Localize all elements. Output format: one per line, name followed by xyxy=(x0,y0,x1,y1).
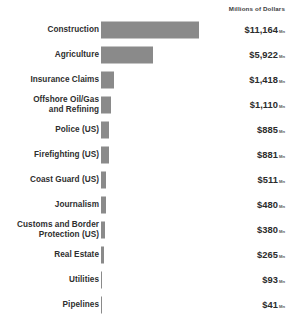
category-label-line: Agriculture xyxy=(4,49,99,60)
chart-row: Customs and BorderProtection (US)$380Mn xyxy=(0,217,289,242)
category-label-line: Customs and Border xyxy=(4,219,99,230)
bar-track xyxy=(101,121,109,138)
value-label: $1,418Mn xyxy=(249,75,285,85)
category-label-line: Police (US) xyxy=(4,124,99,135)
category-label: Coast Guard (US) xyxy=(4,174,99,185)
value-unit-suffix: Mn xyxy=(279,104,285,109)
chart-row: Journalism$480Mn xyxy=(0,192,289,217)
bar xyxy=(101,96,111,113)
bar xyxy=(101,196,106,213)
value-number: $881 xyxy=(257,150,278,160)
category-label-line: Construction xyxy=(4,24,99,35)
value-unit-suffix: Mn xyxy=(279,154,285,159)
chart-row: Real Estate$265Mn xyxy=(0,242,289,267)
bar-track xyxy=(101,96,111,113)
category-label: Offshore Oil/Gasand Refining xyxy=(4,94,99,115)
value-label: $480Mn xyxy=(257,200,285,210)
category-label: Police (US) xyxy=(4,124,99,135)
value-unit-suffix: Mn xyxy=(279,304,285,309)
value-unit-suffix: Mn xyxy=(279,29,285,34)
value-number: $511 xyxy=(258,175,278,185)
bar-track xyxy=(101,246,104,263)
value-label: $11,164Mn xyxy=(245,25,286,35)
chart-row: Utilities$93Mn xyxy=(0,267,289,292)
bar xyxy=(101,271,102,288)
value-unit-suffix: Mn xyxy=(279,229,285,234)
category-label-line: Offshore Oil/Gas xyxy=(4,94,99,105)
value-label: $93Mn xyxy=(262,275,285,285)
bar-track xyxy=(101,221,105,238)
value-label: $511Mn xyxy=(258,175,285,185)
value-label: $885Mn xyxy=(257,125,285,135)
bar xyxy=(101,246,104,263)
category-label-line: and Refining xyxy=(4,105,99,116)
category-label-line: Firefighting (US) xyxy=(4,149,99,160)
bar-chart: Millions of Dollars Construction$11,164M… xyxy=(0,0,289,333)
bar xyxy=(101,21,199,38)
value-number: $5,922 xyxy=(249,50,278,60)
category-label-line: Protection (US) xyxy=(4,230,99,241)
category-label: Customs and BorderProtection (US) xyxy=(4,219,99,240)
category-label-line: Journalism xyxy=(4,199,99,210)
bar xyxy=(101,171,106,188)
chart-row: Insurance Claims$1,418Mn xyxy=(0,67,289,92)
bar xyxy=(101,121,109,138)
category-label-line: Insurance Claims xyxy=(4,74,99,85)
bar-track xyxy=(101,171,106,188)
value-unit-suffix: Mn xyxy=(279,54,285,59)
value-unit-suffix: Mn xyxy=(279,204,285,209)
category-label-line: Pipelines xyxy=(4,299,99,310)
category-label-line: Utilities xyxy=(4,274,99,285)
bar-track xyxy=(101,196,106,213)
bar-track xyxy=(101,271,102,288)
value-label: $265Mn xyxy=(257,250,285,260)
chart-row: Pipelines$41Mn xyxy=(0,292,289,317)
category-label: Journalism xyxy=(4,199,99,210)
bar xyxy=(101,146,109,163)
value-unit-suffix: Mn xyxy=(279,79,285,84)
value-number: $1,418 xyxy=(249,75,278,85)
value-number: $1,110 xyxy=(250,100,278,110)
bar xyxy=(101,71,114,88)
bar-track xyxy=(101,146,109,163)
value-unit-suffix: Mn xyxy=(279,179,285,184)
value-unit-suffix: Mn xyxy=(279,129,285,134)
value-number: $885 xyxy=(257,125,278,135)
category-label: Agriculture xyxy=(4,49,99,60)
chart-row: Coast Guard (US)$511Mn xyxy=(0,167,289,192)
category-label: Insurance Claims xyxy=(4,74,99,85)
value-label: $41Mn xyxy=(262,300,285,310)
chart-row: Agriculture$5,922Mn xyxy=(0,42,289,67)
category-label: Utilities xyxy=(4,274,99,285)
category-label: Real Estate xyxy=(4,249,99,260)
category-label: Pipelines xyxy=(4,299,99,310)
value-label: $380Mn xyxy=(257,225,285,235)
chart-row: Police (US)$885Mn xyxy=(0,117,289,142)
unit-header-label: Millions of Dollars xyxy=(229,5,285,12)
value-label: $5,922Mn xyxy=(249,50,285,60)
value-number: $41 xyxy=(262,300,278,310)
chart-row: Firefighting (US)$881Mn xyxy=(0,142,289,167)
chart-rows: Construction$11,164MnAgriculture$5,922Mn… xyxy=(0,17,289,317)
value-number: $93 xyxy=(262,275,278,285)
bar-track xyxy=(101,71,114,88)
value-number: $11,164 xyxy=(245,25,278,35)
value-number: $380 xyxy=(257,225,278,235)
bar xyxy=(101,46,153,63)
chart-row: Construction$11,164Mn xyxy=(0,17,289,42)
category-label-line: Real Estate xyxy=(4,249,99,260)
value-label: $1,110Mn xyxy=(250,100,285,110)
value-number: $265 xyxy=(257,250,278,260)
value-label: $881Mn xyxy=(257,150,285,160)
category-label: Firefighting (US) xyxy=(4,149,99,160)
value-unit-suffix: Mn xyxy=(279,254,285,259)
chart-row: Offshore Oil/Gasand Refining$1,110Mn xyxy=(0,92,289,117)
value-number: $480 xyxy=(257,200,278,210)
bar xyxy=(101,221,105,238)
bar-track xyxy=(101,21,199,38)
category-label-line: Coast Guard (US) xyxy=(4,174,99,185)
category-label: Construction xyxy=(4,24,99,35)
bar-track xyxy=(101,46,153,63)
value-unit-suffix: Mn xyxy=(279,279,285,284)
